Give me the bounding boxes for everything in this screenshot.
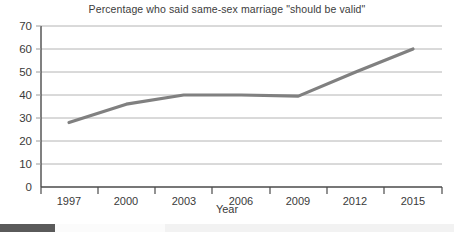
chart-figure: Percentage who said same-sex marriage "s… bbox=[0, 0, 454, 232]
ytick-label-10: 10 bbox=[4, 158, 32, 170]
bottom-accent-tail bbox=[55, 224, 165, 232]
ytick-label-60: 60 bbox=[4, 43, 32, 55]
ytick-label-50: 50 bbox=[4, 66, 32, 78]
data-series-line bbox=[69, 49, 413, 123]
y-axis-ticks bbox=[36, 26, 41, 164]
ytick-label-0: 0 bbox=[4, 181, 32, 193]
ytick-label-40: 40 bbox=[4, 89, 32, 101]
bottom-accent-bar bbox=[0, 224, 55, 232]
ytick-label-30: 30 bbox=[4, 112, 32, 124]
ytick-label-70: 70 bbox=[4, 20, 32, 32]
x-axis-ticks bbox=[41, 187, 442, 194]
ytick-label-20: 20 bbox=[4, 135, 32, 147]
x-axis-title: Year bbox=[0, 203, 454, 215]
